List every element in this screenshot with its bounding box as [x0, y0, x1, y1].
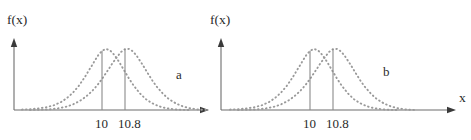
- panel-b-y-axis-arrow-icon: [218, 38, 224, 47]
- panel-b: f(x) x b 10 10.8: [210, 12, 466, 131]
- figure-canvas: f(x) a 10 10.8 f(x) x b 10 10.8: [0, 0, 471, 140]
- panel-b-x-axis-arrow-icon: [447, 107, 456, 113]
- panel-b-label: b: [383, 64, 390, 79]
- panel-b-curve-1: [230, 49, 398, 110]
- panel-a-tick-label-10: 10: [95, 116, 108, 131]
- panel-b-curve-2: [238, 49, 416, 110]
- panel-b-tick-label-10: 10: [303, 116, 316, 131]
- panel-b-y-axis-label: f(x): [210, 12, 230, 27]
- panel-a: f(x) a 10 10.8: [7, 12, 209, 131]
- panel-a-curve-1: [22, 49, 190, 110]
- statistics-figure: f(x) a 10 10.8 f(x) x b 10 10.8: [0, 0, 471, 140]
- panel-a-tick-label-10-8: 10.8: [118, 116, 141, 131]
- panel-a-label: a: [176, 67, 182, 82]
- panel-b-tick-label-10-8: 10.8: [326, 116, 349, 131]
- panel-a-y-axis-label: f(x): [7, 12, 27, 27]
- panel-a-y-axis-arrow-icon: [11, 38, 17, 47]
- panel-b-x-axis-label: x: [459, 90, 466, 105]
